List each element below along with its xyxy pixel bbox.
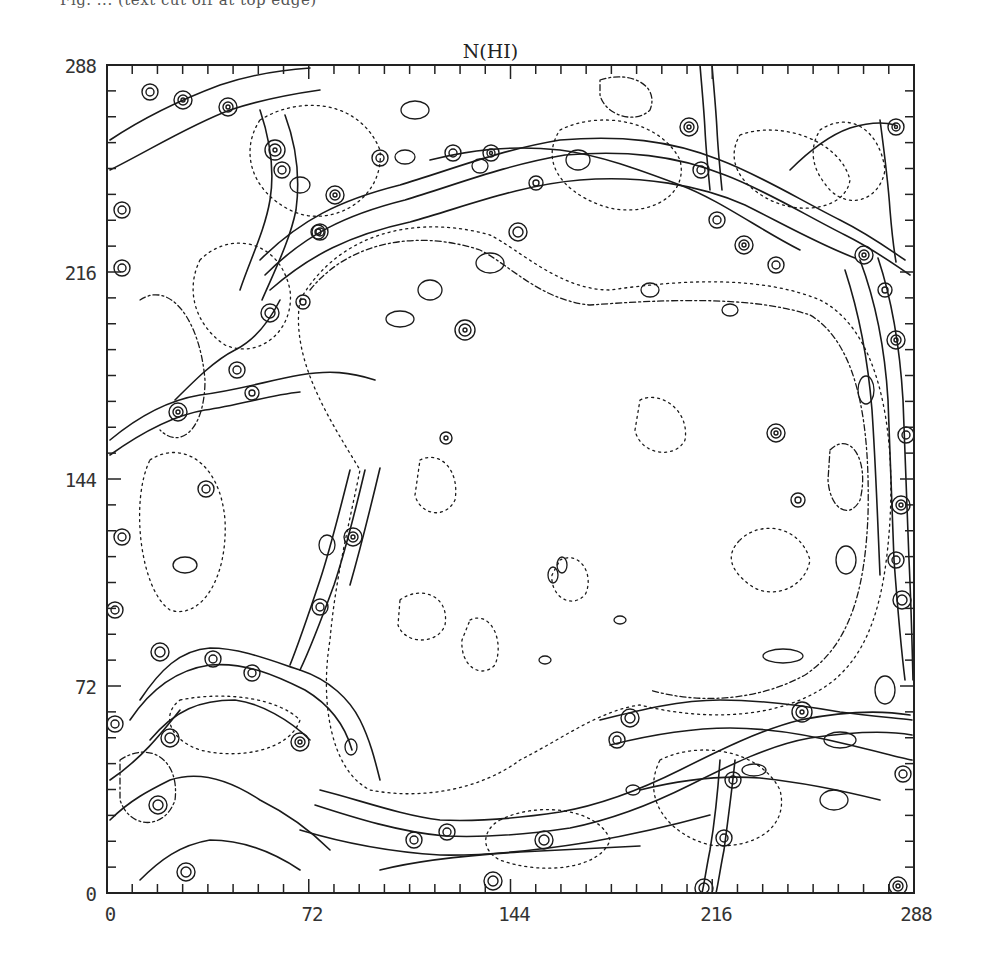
low-level-dotted-contours (140, 105, 891, 868)
knot (484, 872, 502, 890)
knot (169, 403, 187, 421)
knot (455, 320, 475, 340)
knot (344, 528, 362, 546)
knot (855, 246, 873, 264)
knot (265, 140, 285, 160)
knot (107, 716, 123, 732)
knot (709, 212, 725, 228)
knot (445, 145, 461, 161)
knot (888, 552, 904, 568)
knot (878, 283, 892, 297)
knot (791, 493, 805, 507)
knot (114, 202, 130, 218)
knot (107, 602, 123, 618)
knot (149, 796, 167, 814)
knot (244, 665, 260, 681)
plot-frame (107, 65, 914, 893)
knot (198, 481, 214, 497)
knot (888, 119, 904, 135)
knot (439, 824, 455, 840)
knot (609, 732, 625, 748)
knot (291, 733, 309, 751)
knot (621, 709, 639, 727)
knot (893, 591, 911, 609)
knot (296, 295, 310, 309)
knot (114, 260, 130, 276)
shell-solid-contours (110, 65, 913, 893)
knot (895, 766, 911, 782)
knot (114, 529, 130, 545)
knot (767, 424, 785, 442)
dense-knots (107, 84, 914, 897)
knot (440, 432, 452, 444)
axis-ticks (107, 65, 914, 893)
knot (716, 830, 732, 846)
knot (326, 186, 344, 204)
knot (274, 162, 290, 178)
knot (245, 386, 259, 400)
knot (483, 145, 499, 161)
contour-plot (0, 0, 981, 975)
knot (311, 225, 325, 239)
knot (151, 643, 169, 661)
knot (142, 84, 158, 100)
knot (406, 832, 422, 848)
knot (735, 236, 753, 254)
knot (529, 176, 543, 190)
knot (680, 118, 698, 136)
knot (177, 863, 195, 881)
knot (693, 162, 709, 178)
knot (161, 729, 179, 747)
knot (261, 304, 279, 322)
knot (898, 427, 914, 443)
knot (229, 362, 245, 378)
knot (509, 223, 527, 241)
knot (219, 98, 237, 116)
knot (535, 831, 553, 849)
knot (768, 257, 784, 273)
